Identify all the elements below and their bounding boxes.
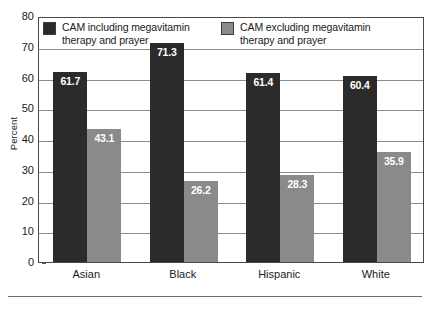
bar-value-label: 28.3 bbox=[280, 178, 314, 190]
bar-asian-series-1: 43.1 bbox=[87, 129, 121, 262]
y-tick-label: 0 bbox=[10, 257, 34, 268]
plot-area: 61.743.171.326.261.428.360.435.9 CAM inc… bbox=[38, 17, 424, 263]
y-tick-label: 80 bbox=[10, 11, 34, 22]
legend-entry-series-1: CAM excluding megavitamin therapy and pr… bbox=[221, 21, 371, 61]
y-tick-mark bbox=[42, 263, 46, 264]
bar-value-label: 26.2 bbox=[184, 184, 218, 196]
bar-black-series-0: 71.3 bbox=[150, 43, 184, 262]
bar-hispanic-series-1: 28.3 bbox=[280, 175, 314, 262]
y-tick-label: 10 bbox=[10, 226, 34, 237]
bar-white-series-1: 35.9 bbox=[377, 152, 411, 262]
y-tick-label: 70 bbox=[10, 42, 34, 53]
x-tick-label-asian: Asian bbox=[38, 268, 135, 280]
legend-entry-series-0: CAM including megavitamin therapy and pr… bbox=[43, 21, 221, 61]
y-tick-label: 60 bbox=[10, 73, 34, 84]
x-tick-label-white: White bbox=[328, 268, 425, 280]
bar-hispanic-series-0: 61.4 bbox=[246, 73, 280, 262]
bar-value-label: 43.1 bbox=[87, 132, 121, 144]
legend-swatch-icon-series-0 bbox=[43, 22, 56, 35]
x-axis-tick-labels: AsianBlackHispanicWhite bbox=[38, 268, 424, 286]
y-tick-label: 50 bbox=[10, 103, 34, 114]
y-tick-label: 30 bbox=[10, 165, 34, 176]
bar-value-label: 61.7 bbox=[53, 75, 87, 87]
y-tick-label: 20 bbox=[10, 196, 34, 207]
bar-asian-series-0: 61.7 bbox=[53, 72, 87, 262]
chart-legend: CAM including megavitamin therapy and pr… bbox=[43, 21, 419, 61]
x-tick-label-black: Black bbox=[135, 268, 232, 280]
y-tick-label: 40 bbox=[10, 134, 34, 145]
legend-swatch-icon-series-1 bbox=[221, 22, 234, 35]
bar-black-series-1: 26.2 bbox=[184, 181, 218, 262]
legend-label-series-0: CAM including megavitamin therapy and pr… bbox=[62, 21, 190, 46]
bar-value-label: 35.9 bbox=[377, 155, 411, 167]
bar-value-label: 60.4 bbox=[343, 79, 377, 91]
y-axis-tick-labels: 80706050403020100 bbox=[8, 0, 34, 309]
bottom-divider bbox=[8, 296, 422, 297]
bar-white-series-0: 60.4 bbox=[343, 76, 377, 262]
x-tick-label-hispanic: Hispanic bbox=[231, 268, 328, 280]
bar-value-label: 61.4 bbox=[246, 76, 280, 88]
legend-label-series-1: CAM excluding megavitamin therapy and pr… bbox=[240, 21, 371, 46]
bar-chart-figure: Percent 80706050403020100 61.743.171.326… bbox=[0, 0, 428, 309]
